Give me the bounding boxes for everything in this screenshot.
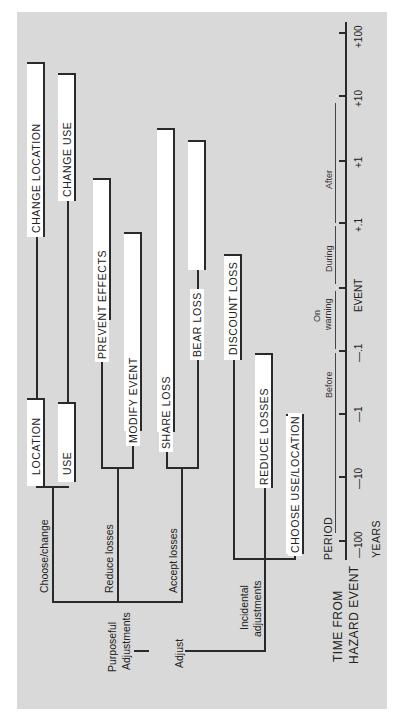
tick-m1 bbox=[339, 413, 346, 415]
tick-p100 bbox=[339, 32, 346, 34]
tick-label-p01: +.1 bbox=[353, 218, 364, 232]
tick-p1 bbox=[339, 160, 346, 162]
label-reduce-losses: REDUCE LOSSES bbox=[257, 385, 271, 488]
period-during: During bbox=[324, 245, 334, 272]
label-location: LOCATION bbox=[29, 414, 43, 478]
bracket-purposeful bbox=[52, 601, 183, 603]
label-bear-loss: BEAR LOSS bbox=[190, 289, 204, 360]
label-reduce-losses-branch: Reduce losses bbox=[103, 524, 115, 593]
axis-title-2: HAZARD EVENT bbox=[347, 565, 362, 664]
brace-after bbox=[335, 103, 336, 223]
label-modify-event: MODIFY EVENT bbox=[126, 354, 140, 446]
label-purposeful-2: Adjustments bbox=[120, 612, 132, 670]
brace-on-warning bbox=[335, 291, 336, 349]
brace-before bbox=[335, 353, 336, 533]
period-label: PERIOD bbox=[322, 517, 334, 560]
label-choose-change: Choose/change bbox=[38, 519, 50, 593]
connector-discount bbox=[233, 360, 235, 558]
box-bear-loss bbox=[188, 140, 206, 270]
stem-incidental bbox=[264, 488, 266, 651]
period-on-warning-1: On bbox=[312, 310, 322, 322]
tick-event bbox=[339, 287, 346, 289]
label-change-use: CHANGE USE bbox=[60, 119, 74, 200]
tick-label-p100: +100 bbox=[353, 25, 364, 48]
label-share-loss: SHARE LOSS bbox=[159, 373, 173, 452]
label-accept-losses: Accept losses bbox=[167, 528, 179, 593]
stem-choose-change bbox=[52, 486, 54, 602]
label-purposeful-1: Purposeful bbox=[106, 622, 118, 672]
period-after: After bbox=[324, 170, 334, 189]
tick-label-m01: —.1 bbox=[353, 344, 364, 362]
brace-during bbox=[335, 226, 336, 284]
trunk-adjust-right bbox=[185, 650, 266, 652]
label-incidental-1: Incidental bbox=[238, 585, 250, 630]
timeline-axis bbox=[345, 22, 347, 560]
tick-label-m10: —10 bbox=[353, 468, 364, 489]
tick-m100 bbox=[339, 540, 346, 542]
label-adjust: Adjust bbox=[173, 639, 185, 668]
years-label: YEARS bbox=[370, 520, 382, 558]
tick-label-p10: +10 bbox=[353, 90, 364, 107]
label-prevent-effects: PREVENT EFFECTS bbox=[95, 247, 109, 362]
stem-reduce-losses bbox=[117, 467, 119, 602]
label-incidental-2: adjustments bbox=[251, 580, 263, 637]
label-discount-loss: DISCOUNT LOSS bbox=[226, 259, 240, 358]
period-on-warning-2: warning bbox=[323, 298, 333, 330]
trunk-adjust-left bbox=[134, 650, 149, 652]
connector-location-change bbox=[36, 237, 38, 398]
label-use: USE bbox=[60, 449, 74, 478]
label-choose-use-location: CHOOSE USE/LOCATION bbox=[288, 413, 302, 556]
connector-use-change bbox=[67, 201, 69, 402]
tick-p10 bbox=[339, 95, 346, 97]
tick-label-event: EVENT bbox=[353, 279, 364, 312]
tick-m10 bbox=[339, 476, 346, 478]
tick-label-m1: —1 bbox=[353, 406, 364, 422]
label-change-location: CHANGE LOCATION bbox=[29, 120, 43, 236]
tick-m01 bbox=[339, 350, 346, 352]
axis-title-1: TIME FROM bbox=[331, 590, 346, 662]
period-before: Before bbox=[324, 371, 334, 398]
stem-accept-losses bbox=[181, 467, 183, 602]
tick-label-m100: —100 bbox=[353, 531, 364, 558]
tick-label-p1: +1 bbox=[353, 157, 364, 168]
tick-p01 bbox=[339, 222, 346, 224]
